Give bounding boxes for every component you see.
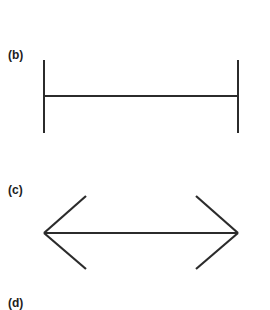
- panel-label-c: (c): [8, 183, 23, 197]
- panel-c-left-upper-fin: [44, 196, 86, 233]
- panel-c-left-lower-fin: [44, 233, 86, 269]
- panel-label-d: (d): [8, 296, 23, 310]
- panel-label-b: (b): [8, 48, 23, 62]
- panel-c-right-lower-fin: [196, 233, 238, 269]
- panel-c-right-upper-fin: [196, 196, 238, 233]
